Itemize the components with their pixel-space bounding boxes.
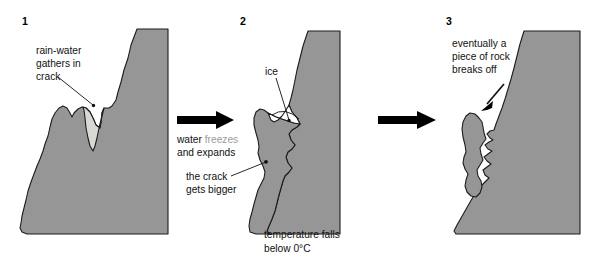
arrow-1-to-2 — [177, 111, 234, 129]
panel-2-ice-leader-line — [276, 78, 289, 120]
panel-1-leader-line — [58, 77, 93, 105]
panel-1-label-line-2: gathers in — [36, 58, 81, 69]
arrow-2-to-3-shape — [378, 111, 436, 129]
arrow-2-to-3 — [378, 111, 436, 129]
panel-1: 1 rain-water gathers in crack — [20, 15, 168, 234]
panel-2-caption-line-2: below 0°C — [264, 243, 311, 254]
panel-2-sublabel-line-1: the crack — [186, 171, 228, 182]
transition-1-line-2: and expands — [177, 147, 235, 158]
panel-2-label-ice: ice — [265, 66, 278, 77]
transition-1-text: water freezes and expands — [176, 134, 238, 158]
panel-2-crack-leader-line — [231, 162, 266, 176]
panel-1-number: 1 — [22, 15, 28, 27]
panel-2-caption-line-1: temperature falls — [264, 229, 340, 240]
panel-3-pointer-shaft — [487, 84, 504, 104]
panel-3: 3 eventually a piece of rock breaks off — [446, 15, 580, 234]
panel-3-label-line-3: breaks off — [452, 64, 497, 75]
panel-3-label-line-1: eventually a — [452, 38, 507, 49]
transition-1-word-water: water — [176, 134, 205, 145]
panel-1-leader-dot — [92, 104, 95, 107]
transition-1-line-1-normal: water freezes — [176, 134, 238, 145]
panel-3-number: 3 — [446, 15, 452, 27]
transition-1-word-freezes: freezes — [205, 134, 238, 145]
panel-3-pointer-arrow — [481, 84, 504, 111]
panel-2-crack-leader-dot — [264, 160, 268, 164]
panel-3-pointer-head — [481, 101, 493, 111]
panel-2-ice-leader-dot — [287, 119, 290, 122]
weathering-diagram: 1 rain-water gathers in crack water free… — [0, 0, 601, 265]
panel-1-label-line-1: rain-water — [36, 45, 82, 56]
panel-3-label-line-2: piece of rock — [452, 51, 511, 62]
panel-2-number: 2 — [240, 15, 246, 27]
arrow-1-to-2-shape — [177, 111, 234, 129]
panel-1-label-line-3: crack — [36, 71, 61, 82]
panel-2-sublabel-line-2: gets bigger — [186, 184, 237, 195]
